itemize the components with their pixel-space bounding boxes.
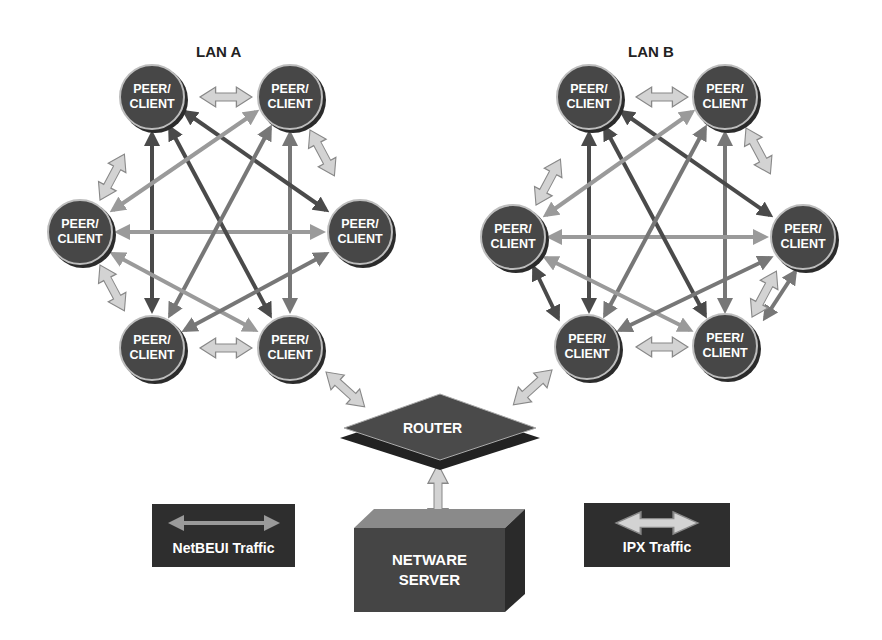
node-label: PEER/CLIENT xyxy=(267,333,312,363)
node-label: PEER/CLIENT xyxy=(564,332,609,362)
lan-a-node-top-left[interactable]: PEER/CLIENT xyxy=(119,64,185,130)
node-label: PEER/CLIENT xyxy=(702,82,747,112)
lan-b-node-bottom-left[interactable]: PEER/CLIENT xyxy=(554,314,620,380)
lan-b-node-top-left[interactable]: PEER/CLIENT xyxy=(556,64,622,130)
server-label: NETWARESERVER xyxy=(354,550,505,590)
legend-netbeui-label: NetBEUI Traffic xyxy=(152,540,295,556)
node-label: PEER/CLIENT xyxy=(57,217,102,247)
node-label: PEER/CLIENT xyxy=(337,217,382,247)
node-label: PEER/CLIENT xyxy=(702,331,747,361)
node-label: PEER/CLIENT xyxy=(129,82,174,112)
lan-a-title: LAN A xyxy=(196,43,241,60)
node-label: PEER/CLIENT xyxy=(129,333,174,363)
lan-a-node-top-right[interactable]: PEER/CLIENT xyxy=(257,64,323,130)
lan-b-node-left[interactable]: PEER/CLIENT xyxy=(480,204,546,270)
lan-b-node-right[interactable]: PEER/CLIENT xyxy=(770,204,836,270)
lan-a-node-right[interactable]: PEER/CLIENT xyxy=(327,199,393,265)
lan-a-node-bottom-right[interactable]: PEER/CLIENT xyxy=(257,315,323,381)
node-label: PEER/CLIENT xyxy=(267,82,312,112)
legend-ipx: IPX Traffic xyxy=(584,503,730,567)
node-label: PEER/CLIENT xyxy=(566,82,611,112)
lan-b-node-top-right[interactable]: PEER/CLIENT xyxy=(692,64,758,130)
node-label: PEER/CLIENT xyxy=(780,222,825,252)
lan-a-node-left[interactable]: PEER/CLIENT xyxy=(47,199,113,265)
lan-b-title: LAN B xyxy=(628,43,674,60)
lan-a-node-bottom-left[interactable]: PEER/CLIENT xyxy=(119,315,185,381)
legend-netbeui: NetBEUI Traffic xyxy=(152,504,295,567)
node-label: PEER/CLIENT xyxy=(490,222,535,252)
lan-a-netbeui-links xyxy=(113,112,326,330)
lan-b-node-bottom-right[interactable]: PEER/CLIENT xyxy=(692,313,758,379)
router-label: ROUTER xyxy=(403,420,462,436)
legend-ipx-label: IPX Traffic xyxy=(584,539,730,555)
